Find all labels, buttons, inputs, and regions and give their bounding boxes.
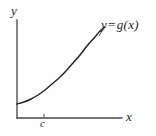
y-axis-label: y: [11, 4, 17, 17]
function-label: y=g(x): [101, 18, 139, 31]
figure-container: y x c y=g(x): [0, 0, 156, 136]
x-tick-label-c: c: [40, 118, 45, 129]
function-curve-g: [17, 27, 105, 104]
x-axis-label: x: [126, 110, 132, 123]
function-label-operator: =: [107, 17, 117, 32]
function-label-rhs: g(x): [117, 17, 139, 32]
